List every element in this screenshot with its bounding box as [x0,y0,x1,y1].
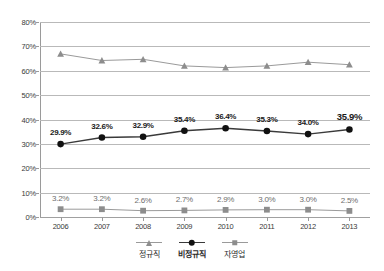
x-tick-mark [143,217,144,221]
data-point-marker [347,208,353,214]
legend-symbol [146,240,152,246]
y-tick-label: 60% [2,66,36,75]
y-tick-mark [36,144,39,145]
y-tick-label: 70% [2,42,36,51]
y-tick-mark [36,120,39,121]
legend-label: 비정규직 [178,248,205,259]
data-value-label: 32.6% [91,121,112,130]
legend-label: 자영업 [224,248,244,259]
y-tick-mark [36,168,39,169]
line-chart: 0%10%20%30%40%50%60%70%80% 29.9%32.6%32.… [0,0,384,271]
x-tick-label: 2009 [176,222,192,231]
data-value-label: 3.2% [52,194,69,203]
x-tick-label: 2011 [259,222,274,231]
data-value-label: 3.0% [300,194,317,203]
x-tick-label: 2013 [341,222,357,231]
y-tick-label: 80% [2,18,36,27]
x-tick-label: 2012 [300,222,316,231]
data-point-marker [99,134,106,141]
x-tick-label: 2007 [94,222,110,231]
series-line [61,54,350,68]
data-point-marker [140,208,146,214]
x-tick-mark [349,217,350,221]
y-tick-label: 20% [2,164,36,173]
data-value-label: 34.0% [298,118,319,127]
x-tick-label: 2006 [53,222,69,231]
square-marker-icon [222,238,248,247]
data-point-marker [181,127,188,134]
data-value-label: 35.3% [256,115,277,124]
plot-area: 29.9%32.6%32.9%35.4%36.4%35.3%34.0%35.9%… [40,22,370,217]
data-value-label: 2.6% [135,195,152,204]
y-tick-mark [36,46,39,47]
triangle-marker-icon [136,238,162,247]
legend-label: 정규직 [139,248,159,259]
data-point-marker [182,208,188,214]
data-value-label: 3.2% [93,194,110,203]
legend-item-2[interactable]: 비정규직 [178,238,205,259]
data-point-marker [57,141,64,148]
y-tick-label: 30% [2,139,36,148]
data-value-label: 2.7% [176,195,193,204]
y-tick-mark [36,95,39,96]
data-point-marker [305,131,312,138]
x-tick-mark [226,217,227,221]
data-point-marker [346,126,353,133]
x-tick-mark [61,217,62,221]
data-value-label: 2.9% [217,194,234,203]
data-point-marker [140,134,147,141]
series-3 [58,206,353,214]
legend-item-3[interactable]: 자영업 [222,238,248,259]
y-tick-mark [36,71,39,72]
legend-symbol [189,239,196,246]
data-value-label: 36.4% [215,112,236,121]
data-point-marker [264,128,271,135]
legend-item-1[interactable]: 정규직 [136,238,162,259]
data-value-label: 35.4% [174,114,195,123]
data-value-label: 2.5% [341,195,358,204]
data-value-label: 3.0% [258,194,275,203]
y-tick-label: 50% [2,91,36,100]
data-value-label: 35.9% [337,110,362,121]
gridline [40,217,370,218]
x-tick-mark [308,217,309,221]
y-tick-mark [36,217,39,218]
data-point-marker [222,125,229,132]
series-layer [40,22,370,217]
data-point-marker [305,207,311,213]
y-tick-label: 40% [2,115,36,124]
y-tick-mark [36,193,39,194]
x-tick-label: 2010 [218,222,234,231]
x-tick-mark [267,217,268,221]
data-value-label: 32.9% [133,120,154,129]
y-tick-mark [36,22,39,23]
data-point-marker [223,207,229,213]
data-point-marker [58,206,64,212]
x-tick-mark [102,217,103,221]
legend-symbol [232,240,238,246]
data-value-label: 29.9% [50,128,71,137]
data-point-marker [99,206,105,212]
y-tick-label: 0% [2,213,36,222]
circle-marker-icon [179,238,205,247]
data-point-marker [57,51,64,57]
series-1 [57,51,353,71]
data-point-marker [264,207,270,213]
chart-legend: 정규직비정규직자영업 [0,238,384,259]
y-axis-ticks: 0%10%20%30%40%50%60%70%80% [0,22,36,217]
y-tick-label: 10% [2,188,36,197]
x-tick-label: 2008 [135,222,151,231]
x-tick-mark [184,217,185,221]
